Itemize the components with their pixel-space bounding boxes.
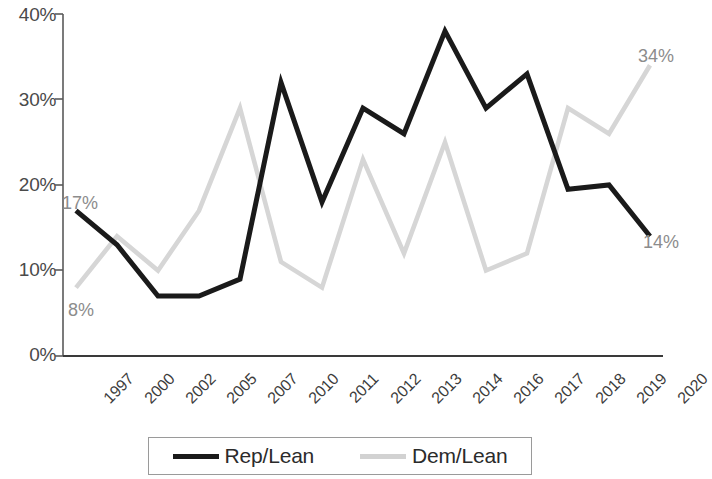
annotation-dem-1997: 8% [68,300,94,321]
x-tick-label-2010: 2010 [305,370,342,407]
annotation-rep-2020: 14% [643,232,679,253]
legend-swatch-dem-lean [360,454,406,459]
legend-entry-dem-lean: Dem/Lean [360,444,507,468]
x-tick-label-2013: 2013 [428,370,465,407]
chart-legend: Rep/Lean Dem/Lean [148,437,532,475]
legend-label-rep-lean: Rep/Lean [225,444,314,468]
x-tick-label-1997: 1997 [100,370,137,407]
x-tick-label-2019: 2019 [633,370,670,407]
x-tick-label-2012: 2012 [387,370,424,407]
x-tick-label-2014: 2014 [469,370,506,407]
x-tick-label-2017: 2017 [551,370,588,407]
x-tick-label-2018: 2018 [592,370,629,407]
legend-label-dem-lean: Dem/Lean [412,444,507,468]
x-tick-label-2000: 2000 [141,370,178,407]
x-tick-label-2002: 2002 [182,370,219,407]
x-tick-label-2011: 2011 [346,370,382,406]
legend-entry-rep-lean: Rep/Lean [173,444,314,468]
x-tick-label-2007: 2007 [264,370,301,407]
x-tick-label-2005: 2005 [223,370,260,407]
x-tick-label-2016: 2016 [510,370,547,407]
x-axis-labels: 1997200020022005200720102011201220132014… [0,360,682,420]
legend-swatch-rep-lean [173,454,219,459]
x-tick-label-2020: 2020 [674,370,711,407]
annotation-rep-1997: 17% [62,193,98,214]
annotation-dem-2020: 34% [638,46,674,67]
